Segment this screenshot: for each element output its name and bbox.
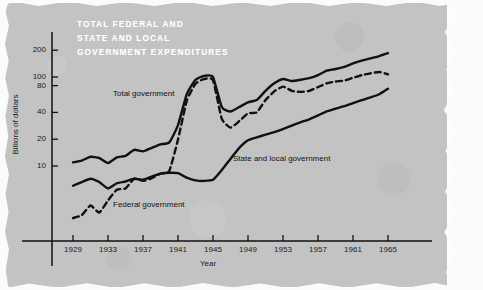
y-axis-title: Billions of dollars [11,80,20,170]
series-label-state-and-local-government: State and local government [233,154,330,163]
y-tick-label-100: 100 [18,72,46,81]
y-tick-label-40: 40 [18,107,46,116]
x-tick-label-1945: 1945 [198,245,228,254]
x-tick-label-1929: 1929 [58,245,88,254]
x-tick-label-1949: 1949 [233,245,263,254]
x-tick-label-1941: 1941 [163,245,193,254]
x-axis-title: Year [200,259,216,268]
y-tick-label-80: 80 [18,81,46,90]
x-tick-label-1937: 1937 [128,245,158,254]
chart-title-line-1: TOTAL FEDERAL AND [77,17,229,31]
x-tick-label-1965: 1965 [373,245,403,254]
x-tick-label-1953: 1953 [268,245,298,254]
series-label-total-government: Total government [113,89,174,98]
series-line-state-and-local-government [73,89,388,189]
figure-caption: FIG. [459,239,478,250]
x-tick-label-1933: 1933 [93,245,123,254]
series-label-federal-government: Federal government [113,200,185,209]
chart-title: TOTAL FEDERAL ANDSTATE AND LOCALGOVERNME… [77,17,229,60]
chart-title-line-3: GOVERNMENT EXPENDITURES [77,45,229,59]
chart-title-line-2: STATE AND LOCAL [77,31,229,45]
x-tick-label-1957: 1957 [303,245,333,254]
figure-root: TOTAL FEDERAL ANDSTATE AND LOCALGOVERNME… [0,0,483,290]
y-tick-label-10: 10 [18,161,46,170]
y-tick-label-200: 200 [18,45,46,54]
x-tick-label-1961: 1961 [338,245,368,254]
y-tick-label-20: 20 [18,134,46,143]
